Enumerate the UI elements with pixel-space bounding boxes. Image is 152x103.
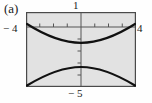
x-axis-max-label: 4: [137, 23, 143, 34]
x-axis-min-label: − 4: [3, 23, 17, 34]
y-axis-min-label: − 5: [68, 88, 82, 99]
figure-panel: (a): [0, 0, 152, 103]
panel-label: (a): [4, 2, 18, 16]
plot-area: [26, 12, 136, 87]
y-axis-max-label: 1: [73, 0, 79, 11]
plot-svg: [26, 12, 136, 87]
